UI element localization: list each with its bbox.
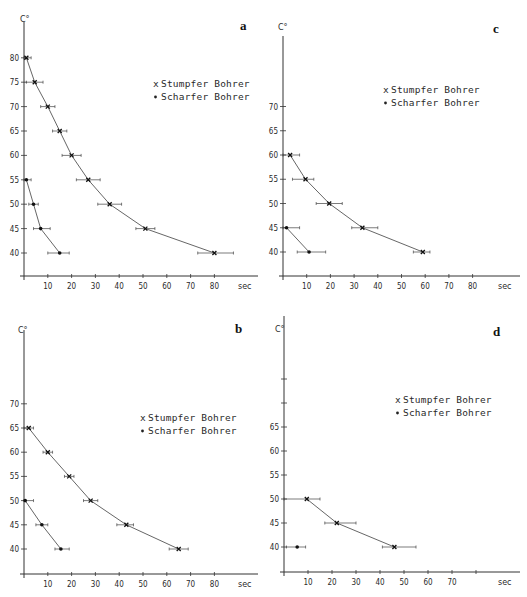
y-tick-label: 45: [269, 224, 278, 233]
y-tick-label: 55: [10, 472, 19, 481]
x-tick-label: 40: [115, 580, 125, 589]
legend: xStumpfer BohrerScharfer Bohrer: [153, 78, 250, 102]
legend-label-scharfer: Scharfer Bohrer: [391, 97, 480, 108]
x-tick-label: 30: [350, 282, 360, 291]
x-tick-label: 80: [468, 282, 478, 291]
y-axis-title: C°: [18, 326, 28, 335]
x-tick-label: 60: [162, 282, 172, 291]
x-tick-label: 40: [115, 282, 125, 291]
y-tick-label: 80: [10, 54, 20, 63]
y-tick-label: 40: [270, 543, 280, 552]
y-tick-label: 45: [10, 225, 19, 234]
series-scharfer: [283, 226, 326, 254]
x-tick-label: 50: [138, 580, 148, 589]
panel-letter: c: [493, 21, 499, 36]
y-tick-label: 45: [270, 519, 279, 528]
data-point-dot-icon: [285, 226, 289, 230]
series-stumpfer: [284, 497, 416, 549]
data-point-dot-icon: [25, 178, 29, 182]
y-tick-label: 55: [269, 175, 278, 184]
x-tick-label: 70: [186, 580, 196, 589]
legend-marker-dot-icon: [396, 412, 399, 415]
x-axis-title: sec: [238, 282, 252, 291]
x-axis-title: sec: [498, 282, 512, 291]
x-tick-label: 40: [375, 578, 385, 587]
x-tick-label: 10: [43, 282, 53, 291]
y-tick-label: 50: [269, 200, 279, 209]
series-line: [26, 180, 59, 253]
data-point-dot-icon: [307, 250, 311, 254]
series-scharfer: [286, 545, 305, 549]
data-point-dot-icon: [23, 499, 27, 503]
x-tick-label: 50: [399, 578, 409, 587]
legend: xStumpfer BohrerScharfer Bohrer: [140, 412, 237, 436]
data-point-dot-icon: [39, 227, 43, 231]
series-line: [290, 155, 423, 252]
legend-label-scharfer: Scharfer Bohrer: [148, 425, 237, 436]
x-tick-label: 50: [138, 282, 148, 291]
legend-marker-dot-icon: [141, 430, 144, 433]
y-axis-title: C°: [275, 325, 285, 334]
y-tick-label: 60: [270, 447, 280, 456]
series-line: [29, 428, 179, 549]
panel-letter: d: [493, 324, 501, 339]
x-tick-label: 70: [186, 282, 196, 291]
data-point-dot-icon: [40, 523, 44, 527]
legend-label-stumpfer: Stumpfer Bohrer: [391, 84, 480, 95]
y-tick-label: 70: [10, 400, 20, 409]
y-tick-label: 60: [10, 448, 20, 457]
y-tick-label: 55: [10, 176, 19, 185]
y-tick-label: 65: [270, 423, 279, 432]
x-tick-label: 80: [210, 580, 220, 589]
chart-panel-a: 4045505560657075801020304050607080secC°a…: [10, 15, 258, 291]
legend-marker-x-icon: x: [140, 412, 146, 423]
y-axis-title: C°: [278, 23, 288, 32]
y-tick-label: 50: [10, 200, 20, 209]
x-tick-label: 10: [43, 580, 53, 589]
legend-marker-x-icon: x: [383, 84, 389, 95]
chart-panel-c: 404550556065701020304050607080secC°cxStu…: [269, 21, 520, 291]
series-scharfer: [23, 499, 69, 551]
y-tick-label: 45: [10, 521, 19, 530]
y-tick-label: 65: [10, 424, 19, 433]
x-tick-label: 80: [210, 282, 220, 291]
y-tick-label: 60: [10, 151, 20, 160]
y-tick-label: 40: [269, 248, 279, 257]
y-tick-label: 65: [10, 127, 19, 136]
x-tick-label: 60: [423, 578, 433, 587]
x-tick-label: 20: [326, 282, 336, 291]
y-tick-label: 55: [270, 471, 279, 480]
x-tick-label: 40: [373, 282, 383, 291]
legend-marker-x-icon: x: [153, 78, 159, 89]
series-stumpfer: [24, 426, 188, 551]
legend-label-scharfer: Scharfer Bohrer: [403, 407, 492, 418]
series-scharfer: [24, 178, 69, 255]
y-tick-label: 50: [10, 497, 20, 506]
y-tick-label: 40: [10, 545, 20, 554]
legend: xStumpfer BohrerScharfer Bohrer: [383, 84, 480, 108]
y-tick-label: 70: [10, 103, 20, 112]
chart-panel-d: 40455055606510203040506070secC°dxStumpfe…: [270, 316, 520, 587]
y-tick-label: 75: [10, 78, 19, 87]
legend-marker-dot-icon: [384, 102, 387, 105]
panel-letter: b: [235, 321, 242, 336]
legend-marker-x-icon: x: [395, 394, 401, 405]
x-tick-label: 30: [91, 282, 101, 291]
figure: 4045505560657075801020304050607080secC°a…: [0, 0, 527, 597]
legend-label-scharfer: Scharfer Bohrer: [161, 91, 250, 102]
legend-marker-dot-icon: [154, 96, 157, 99]
series-line: [287, 228, 310, 252]
y-tick-label: 50: [270, 495, 280, 504]
x-tick-label: 70: [444, 282, 454, 291]
x-tick-label: 20: [327, 578, 337, 587]
series-stumpfer: [283, 153, 430, 254]
x-tick-label: 60: [421, 282, 431, 291]
x-tick-label: 30: [351, 578, 361, 587]
x-tick-label: 30: [91, 580, 101, 589]
x-tick-label: 10: [303, 578, 313, 587]
x-tick-label: 20: [67, 580, 77, 589]
x-tick-label: 20: [67, 282, 77, 291]
x-tick-label: 10: [302, 282, 312, 291]
data-point-dot-icon: [58, 251, 62, 255]
legend-label-stumpfer: Stumpfer Bohrer: [403, 394, 492, 405]
